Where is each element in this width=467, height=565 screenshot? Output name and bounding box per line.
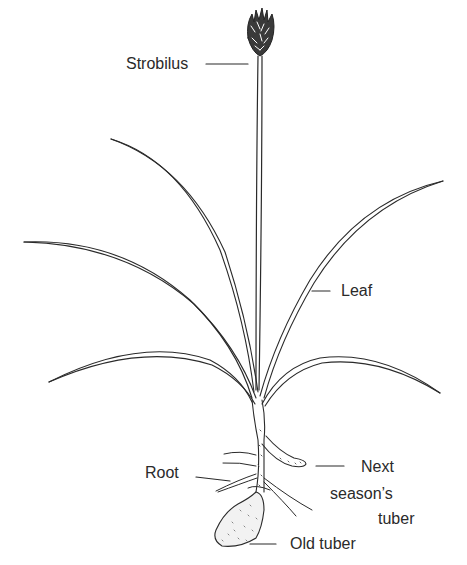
- label-strobilus: Strobilus: [126, 56, 188, 72]
- strobilus-cone: [248, 8, 275, 56]
- leaves: [24, 139, 443, 406]
- leader-lines: [196, 64, 344, 544]
- label-next-tuber-line1: Next: [361, 459, 394, 475]
- label-old-tuber: Old tuber: [290, 536, 356, 552]
- label-next-tuber-line2: season’s: [330, 486, 393, 502]
- label-root: Root: [145, 465, 179, 481]
- leader-root: [196, 477, 230, 481]
- stalk: [256, 56, 262, 390]
- corm-stem: [252, 400, 265, 492]
- next-season-tuber: [262, 436, 306, 467]
- label-leaf: Leaf: [341, 283, 372, 299]
- plant-diagram: [0, 0, 467, 565]
- label-next-tuber-line3: tuber: [378, 511, 414, 527]
